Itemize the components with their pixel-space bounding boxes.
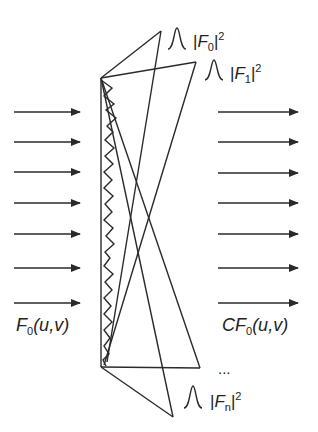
peak-icon-0 (168, 28, 186, 49)
input-arrows (14, 112, 80, 303)
diagram-canvas (0, 0, 318, 432)
peak-icon-1 (205, 60, 223, 80)
peak-label-0: |F0|2 (193, 30, 224, 53)
peak-label-1: |F1|2 (230, 62, 261, 85)
diffraction-rays (101, 31, 200, 417)
peak-icon-n (184, 386, 202, 408)
output-arrows (218, 112, 298, 303)
input-field-label: F0(u,v) (16, 315, 69, 337)
ellipsis: ... (218, 360, 231, 377)
peak-icons (168, 28, 223, 408)
peak-label-n: |Fn|2 (210, 390, 241, 413)
output-field-label: CF0(u,v) (222, 315, 288, 337)
